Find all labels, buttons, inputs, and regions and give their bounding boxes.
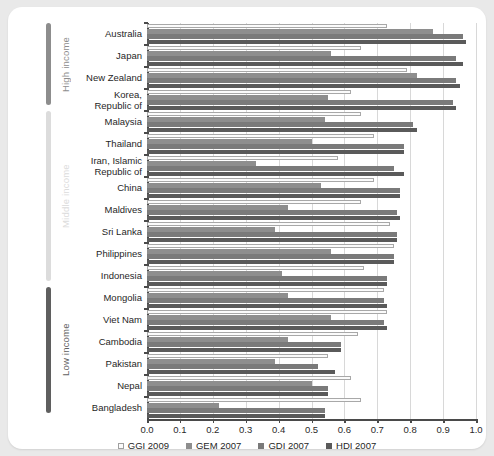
bar-ggi-2009 — [147, 266, 364, 271]
y-axis-label: Viet Nam — [38, 315, 142, 326]
bar-gdi-2007 — [147, 122, 413, 127]
legend-item[interactable]: GGI 2009 — [118, 440, 169, 451]
y-axis-label: Indonesia — [38, 271, 142, 282]
bar-hdi-2007 — [147, 260, 394, 265]
bar-gdi-2007 — [147, 254, 394, 259]
bar-gdi-2007 — [147, 364, 318, 369]
bar-ggi-2009 — [147, 244, 394, 249]
bar-hdi-2007 — [147, 392, 328, 397]
x-axis-tick — [312, 419, 314, 423]
bar-gem-2007 — [147, 183, 321, 188]
bar-hdi-2007 — [147, 62, 463, 67]
chart-row: Malaysia — [147, 111, 476, 133]
bar-gdi-2007 — [147, 210, 397, 215]
bar-hdi-2007 — [147, 326, 387, 331]
chart-row: Korea,Republic of — [147, 89, 476, 111]
bar-gdi-2007 — [147, 276, 387, 281]
income-group: Low income — [42, 287, 88, 413]
x-axis-tick — [147, 419, 149, 423]
bar-ggi-2009 — [147, 376, 351, 381]
bar-hdi-2007 — [147, 216, 400, 221]
bar-gdi-2007 — [147, 78, 456, 83]
y-axis-label: Korea,Republic of — [38, 90, 142, 111]
x-axis-tick-label: 0.9 — [436, 424, 449, 435]
x-axis-tick — [476, 419, 478, 423]
legend-label: GEM 2007 — [196, 440, 241, 451]
chart-card: High incomeMiddle incomeLow income Austr… — [8, 7, 486, 449]
bar-gdi-2007 — [147, 386, 328, 391]
x-axis-tick — [180, 419, 182, 423]
bar-gem-2007 — [147, 249, 331, 254]
bar-ggi-2009 — [147, 134, 374, 139]
bar-ggi-2009 — [147, 222, 390, 227]
bar-gem-2007 — [147, 73, 417, 78]
y-axis-label: Bangladesh — [38, 403, 142, 414]
bar-hdi-2007 — [147, 194, 400, 199]
bar-hdi-2007 — [147, 128, 417, 133]
chart-row: Viet Nam — [147, 309, 476, 331]
chart-row: Bangladesh — [147, 397, 476, 419]
bar-gem-2007 — [147, 117, 325, 122]
bar-hdi-2007 — [147, 348, 341, 353]
x-axis-tick-label: 0.5 — [305, 424, 318, 435]
bar-gdi-2007 — [147, 100, 453, 105]
bar-gem-2007 — [147, 403, 219, 408]
x-axis-tick-label: 1.0 — [469, 424, 482, 435]
bar-gdi-2007 — [147, 342, 341, 347]
bar-gem-2007 — [147, 271, 282, 276]
x-axis-tick-label: 0.2 — [206, 424, 219, 435]
bar-hdi-2007 — [147, 304, 387, 309]
x-axis-tick — [213, 419, 215, 423]
bar-gem-2007 — [147, 51, 331, 56]
bar-gem-2007 — [147, 315, 331, 320]
bar-hdi-2007 — [147, 282, 387, 287]
bar-gem-2007 — [147, 205, 288, 210]
bar-gem-2007 — [147, 139, 312, 144]
bar-ggi-2009 — [147, 90, 351, 95]
x-axis-tick-label: 0.6 — [338, 424, 351, 435]
bar-ggi-2009 — [147, 310, 387, 315]
y-axis-label: Sri Lanka — [38, 227, 142, 238]
y-axis-label: Iran, IslamicRepublic of — [38, 156, 142, 177]
bar-ggi-2009 — [147, 68, 407, 73]
bar-gem-2007 — [147, 359, 275, 364]
y-axis-label: Australia — [38, 29, 142, 40]
x-axis-tick — [246, 419, 248, 423]
chart-legend: GGI 2009GEM 2007GDI 2007HDI 2007 — [8, 440, 486, 451]
chart-row: Nepal — [147, 375, 476, 397]
chart-row: Australia — [147, 23, 476, 45]
x-axis-tick-label: 0.8 — [404, 424, 417, 435]
legend-swatch-icon — [258, 443, 264, 449]
x-axis-tick — [344, 419, 346, 423]
bar-ggi-2009 — [147, 332, 358, 337]
chart-row: Iran, IslamicRepublic of — [147, 155, 476, 177]
legend-item[interactable]: GDI 2007 — [258, 440, 309, 451]
chart-row: Pakistan — [147, 353, 476, 375]
bar-hdi-2007 — [147, 150, 404, 155]
bar-hdi-2007 — [147, 106, 456, 111]
legend-item[interactable]: HDI 2007 — [326, 440, 376, 451]
chart-row: Sri Lanka — [147, 221, 476, 243]
bar-gdi-2007 — [147, 188, 400, 193]
x-axis-tick — [443, 419, 445, 423]
legend-swatch-icon — [326, 443, 332, 449]
chart-row: China — [147, 177, 476, 199]
legend-item[interactable]: GEM 2007 — [186, 440, 241, 451]
bar-gem-2007 — [147, 161, 256, 166]
y-axis-label: Thailand — [38, 139, 142, 150]
y-axis-label: Philippines — [38, 249, 142, 260]
bar-gem-2007 — [147, 227, 275, 232]
bar-ggi-2009 — [147, 398, 361, 403]
bar-ggi-2009 — [147, 354, 328, 359]
y-axis-label: Japan — [38, 51, 142, 62]
chart-row: Philippines — [147, 243, 476, 265]
bar-hdi-2007 — [147, 84, 460, 89]
bar-gdi-2007 — [147, 144, 404, 149]
bar-gem-2007 — [147, 381, 312, 386]
income-group-label: Low income — [42, 287, 88, 413]
bar-gdi-2007 — [147, 408, 325, 413]
bar-ggi-2009 — [147, 112, 361, 117]
x-axis-tick-label: 0.0 — [140, 424, 153, 435]
bar-ggi-2009 — [147, 200, 361, 205]
bar-hdi-2007 — [147, 172, 404, 177]
